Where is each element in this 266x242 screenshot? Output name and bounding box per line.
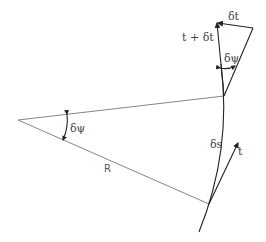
tangent-arrow-t-plus-dt: [217, 23, 224, 96]
tangent-label: t: [238, 145, 243, 158]
triangle-angle-label: δψ: [224, 52, 239, 65]
tangent-diagram: δψ R δs t t + δt δt δψ: [0, 0, 266, 242]
tangent-delta-label: δt: [228, 10, 240, 23]
lower-radius-line: [18, 120, 209, 204]
arc-length-label: δs: [210, 138, 223, 151]
triangle-angle-arc: [220, 66, 235, 69]
radius-label: R: [104, 163, 111, 174]
center-angle-label: δψ: [70, 122, 85, 135]
tangent-arrow-t: [209, 143, 238, 204]
tangent-sum-label: t + δt: [182, 31, 214, 44]
upper-radius-line: [18, 96, 224, 120]
center-angle-arc: [63, 114, 67, 140]
delta-t-arrow: [218, 23, 253, 28]
